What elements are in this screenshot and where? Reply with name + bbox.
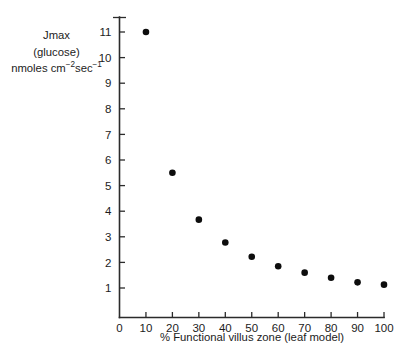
x-tick-label: 40 (219, 322, 232, 334)
data-points (143, 29, 388, 288)
y-tick-label: 1 (105, 282, 111, 294)
scatter-plot: 1234567891011 0102030405060708090100 (0, 0, 403, 361)
x-tick-label: 10 (140, 322, 153, 334)
x-tick-label: 60 (272, 322, 285, 334)
y-tick-label: 7 (105, 129, 111, 141)
data-point (328, 274, 335, 281)
x-tick-label: 0 (116, 322, 122, 334)
x-tick-label: 80 (325, 322, 338, 334)
x-tick-label: 30 (192, 322, 205, 334)
data-point (275, 263, 282, 270)
y-tick-label: 11 (100, 26, 112, 38)
data-point (354, 279, 361, 286)
x-axis-ticks: 0102030405060708090100 (116, 312, 393, 334)
y-tick-label: 6 (105, 154, 111, 166)
x-tick-label: 50 (245, 322, 258, 334)
y-tick-label: 8 (105, 103, 111, 115)
axes (113, 17, 384, 318)
chart-page: Jmax (glucose) nmoles cm−2sec−1 % Functi… (0, 0, 403, 361)
y-tick-label: 5 (105, 180, 111, 192)
data-point (248, 253, 255, 260)
y-tick-label: 9 (105, 77, 111, 89)
y-axis-ticks: 1234567891011 (99, 26, 125, 294)
data-point (169, 170, 176, 177)
y-tick-label: 2 (105, 257, 111, 269)
x-tick-label: 20 (166, 322, 179, 334)
data-point (143, 29, 150, 36)
y-tick-label: 3 (105, 231, 111, 243)
data-point (196, 216, 203, 223)
data-point (381, 281, 388, 288)
y-tick-label: 4 (105, 205, 112, 217)
x-tick-label: 90 (351, 322, 364, 334)
x-tick-label: 100 (374, 322, 393, 334)
data-point (301, 269, 308, 276)
x-tick-label: 70 (298, 322, 311, 334)
y-tick-label: 10 (99, 52, 112, 64)
data-point (222, 239, 229, 246)
